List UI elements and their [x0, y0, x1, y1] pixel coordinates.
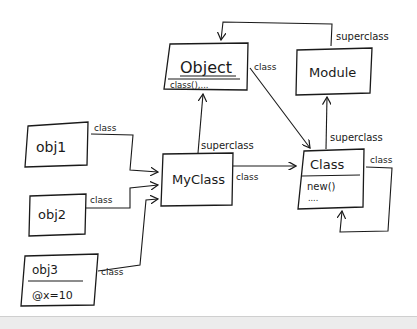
- node-object-title: Object: [180, 58, 232, 77]
- svg-text:class: class: [90, 195, 113, 205]
- svg-text:superclass: superclass: [336, 31, 389, 42]
- edge-myclass-object: superclass: [198, 94, 254, 153]
- node-obj3-attributes: @x=10: [32, 289, 73, 302]
- edge-class-class: class: [340, 155, 393, 232]
- node-obj3-title: obj3: [32, 263, 58, 277]
- svg-text:class: class: [370, 155, 393, 165]
- edge-class-module: superclass: [326, 97, 383, 149]
- svg-text:class: class: [101, 267, 124, 277]
- node-object: Object class(),...: [164, 43, 248, 90]
- node-obj1-title: obj1: [36, 139, 66, 155]
- edge-obj2-myclass: class: [86, 185, 158, 208]
- node-module: Module: [296, 48, 372, 95]
- svg-text:superclass: superclass: [330, 132, 383, 143]
- svg-text:class: class: [94, 123, 117, 133]
- edge-obj1-myclass: class: [91, 123, 158, 172]
- node-myclass: MyClass: [161, 153, 233, 206]
- node-module-title: Module: [309, 65, 356, 80]
- node-obj2: obj2: [29, 194, 86, 236]
- bottom-edge: [0, 316, 417, 329]
- node-class-title: Class: [310, 157, 344, 172]
- node-obj1: obj1: [25, 122, 88, 167]
- svg-text:class: class: [254, 62, 277, 72]
- edge-myclass-class: class: [233, 166, 296, 182]
- svg-text:class: class: [236, 172, 259, 182]
- node-obj3: obj3 @x=10: [21, 254, 98, 306]
- svg-text:superclass: superclass: [201, 140, 254, 151]
- node-obj2-title: obj2: [38, 207, 66, 222]
- node-class: Class new() ....: [298, 149, 364, 209]
- node-class-methods: new(): [307, 181, 336, 192]
- node-object-methods: class(),...: [170, 80, 209, 90]
- edge-object-class: class: [250, 62, 310, 148]
- node-class-extra: ....: [308, 194, 318, 203]
- node-myclass-title: MyClass: [172, 172, 225, 187]
- edge-obj3-myclass: class: [98, 199, 158, 277]
